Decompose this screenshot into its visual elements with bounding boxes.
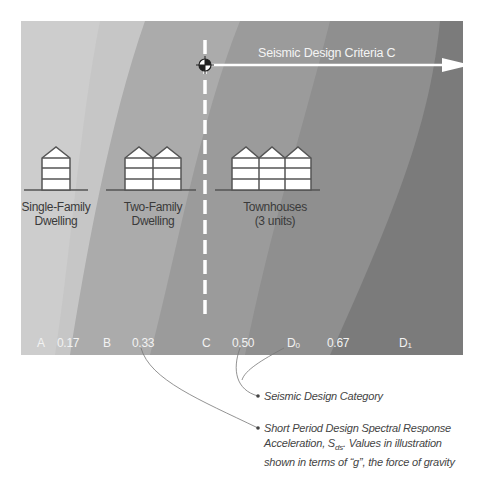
single-family-label: Single-Family Dwelling	[6, 200, 106, 228]
category-d0-label: D0	[287, 336, 300, 350]
leader-lines	[141, 348, 284, 428]
value-033-label: 0.33	[132, 336, 154, 350]
legend-bullet	[256, 426, 260, 430]
category-b-label: B	[103, 336, 111, 350]
townhouses-label: Townhouses (3 units)	[225, 200, 325, 228]
seismic-design-criteria-label: Seismic Design Criteria C	[258, 46, 395, 60]
legend-spectral-response: Short Period Design Spectral Response Ac…	[264, 421, 455, 470]
value-067-label: 0.67	[327, 336, 349, 350]
value-050-label: 0.50	[232, 336, 254, 350]
seismic-diagram: Single-Family Dwelling Two-Family Dwelli…	[0, 0, 482, 479]
category-c-label: C	[202, 336, 210, 350]
legend-bullet	[256, 394, 260, 398]
category-d1-label: D1	[399, 336, 412, 350]
value-017-label: 0.17	[57, 336, 79, 350]
diagram-canvas	[0, 0, 482, 479]
two-family-label: Two-Family Dwelling	[103, 200, 203, 228]
legend-seismic-design-category: Seismic Design Category	[264, 389, 383, 404]
category-a-label: A	[37, 336, 45, 350]
